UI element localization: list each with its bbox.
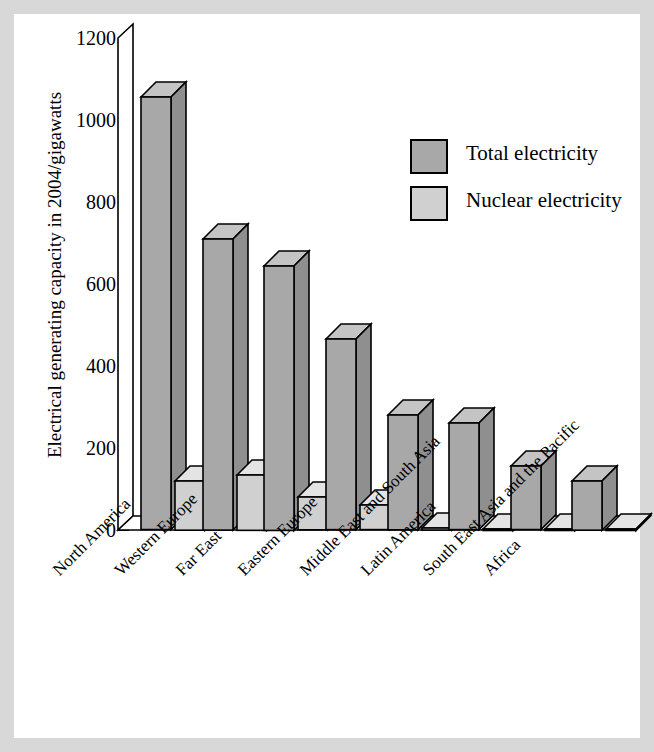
figure-page: Electrical generating capacity in 2004/g… — [0, 0, 654, 752]
legend-swatch-total-electricity — [410, 139, 448, 174]
bar-africa-nuclear-electricity — [606, 514, 651, 531]
bar-north-america-total-electricity — [141, 82, 186, 530]
legend-swatch-nuclear-electricity — [410, 186, 448, 221]
bar-chart: Electrical generating capacity in 2004/g… — [14, 14, 640, 738]
legend-label-total-electricity: Total electricity — [466, 141, 598, 166]
y-axis-wall — [118, 24, 133, 530]
legend-label-nuclear-electricity: Nuclear electricity — [466, 188, 622, 213]
chart-panel: Electrical generating capacity in 2004/g… — [14, 14, 640, 738]
